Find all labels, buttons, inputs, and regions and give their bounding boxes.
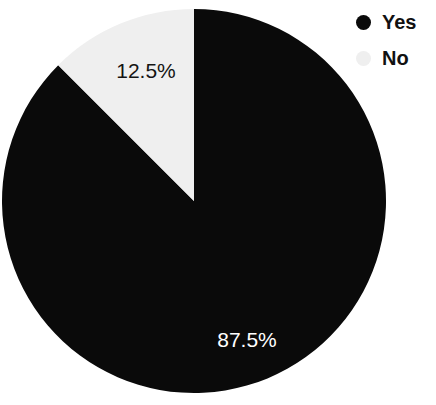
- legend-item-no[interactable]: No: [356, 47, 416, 69]
- legend-label-yes: Yes: [382, 12, 416, 32]
- legend-marker-dot-icon: [356, 51, 371, 66]
- pie-chart-figure: 12.5% 87.5% Yes No: [0, 0, 436, 405]
- legend-item-yes[interactable]: Yes: [356, 11, 416, 33]
- legend-marker-dot-icon: [356, 15, 371, 30]
- chart-legend: Yes No: [356, 11, 416, 69]
- legend-label-no: No: [382, 48, 409, 68]
- pie-slices-group: [2, 9, 386, 393]
